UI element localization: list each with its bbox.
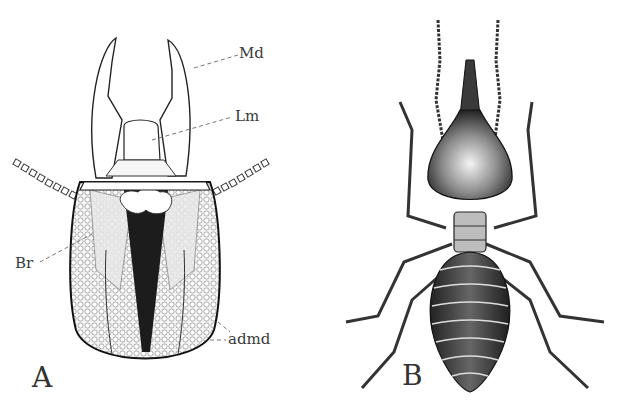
label-mandible: Md — [239, 46, 264, 61]
label-admandibular-gland: admd — [228, 332, 270, 347]
antenna-b-left — [436, 20, 444, 146]
mandible-right — [160, 40, 190, 176]
panel-a-drawing — [13, 38, 269, 359]
panel-letter-a: A — [32, 364, 52, 392]
labrum — [124, 120, 160, 160]
nasus — [460, 60, 480, 116]
antenna-left — [13, 159, 77, 199]
panel-letter-b: B — [402, 362, 423, 390]
brain — [120, 188, 172, 214]
antenna-b-right — [494, 20, 500, 146]
mandible-left — [92, 38, 122, 178]
illustration-canvas — [0, 0, 617, 410]
thorax-b — [454, 212, 486, 252]
label-labrum: Lm — [235, 109, 259, 124]
antenna-right — [205, 159, 269, 199]
label-brain: Br — [15, 256, 33, 271]
